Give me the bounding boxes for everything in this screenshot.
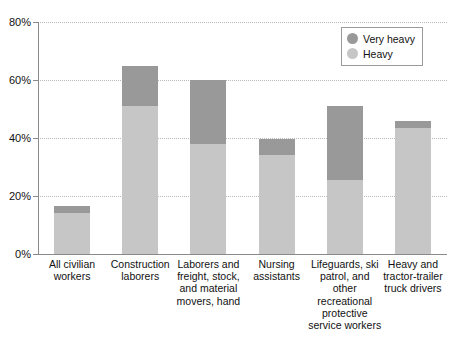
y-tick-label: 60% [0,74,31,86]
bar-segment-heavy[interactable] [327,180,363,254]
x-axis-label: Laborers andfreight, stock,and materialm… [171,258,245,307]
x-axis-label: Constructionlaborers [103,258,177,282]
x-axis-label: Heavy andtractor-trailertruck drivers [376,258,450,295]
bar-segment-heavy[interactable] [54,213,90,254]
bar-segment-very-heavy[interactable] [395,121,431,128]
x-axis-line [38,254,447,255]
bar-segment-very-heavy[interactable] [259,139,295,155]
legend-item[interactable]: Very heavy [347,31,415,46]
bar-group[interactable] [54,206,90,254]
y-tick-label: 40% [0,132,31,144]
bar-group[interactable] [327,106,363,254]
stacked-bar-chart: 0%20%40%60%80% All civilianworkersConstr… [0,0,455,339]
bar-group[interactable] [395,121,431,254]
legend-item[interactable]: Heavy [347,46,415,61]
bar-segment-heavy[interactable] [190,144,226,254]
bar-segment-very-heavy[interactable] [54,206,90,213]
y-tick-label: 80% [0,16,31,28]
bar-segment-very-heavy[interactable] [327,106,363,180]
x-axis-label: Nursingassistants [240,258,314,282]
legend-label: Very heavy [363,33,415,45]
y-tick-label: 20% [0,190,31,202]
y-tick-label: 0% [0,248,31,260]
legend-swatch-icon [347,48,358,59]
x-axis-labels: All civilianworkersConstructionlaborersL… [38,258,447,338]
bar-segment-heavy[interactable] [395,128,431,254]
bar-segment-very-heavy[interactable] [190,80,226,144]
legend-label: Heavy [363,48,393,60]
x-axis-label: Lifeguards, skipatrol, andotherrecreatio… [308,258,382,331]
bar-group[interactable] [190,80,226,254]
chart-legend: Very heavyHeavy [341,27,423,66]
bar-segment-very-heavy[interactable] [122,66,158,107]
bar-segment-heavy[interactable] [259,155,295,254]
bar-group[interactable] [259,139,295,254]
bar-segment-heavy[interactable] [122,106,158,254]
x-axis-label: All civilianworkers [35,258,109,282]
bar-group[interactable] [122,66,158,254]
legend-swatch-icon [347,33,358,44]
